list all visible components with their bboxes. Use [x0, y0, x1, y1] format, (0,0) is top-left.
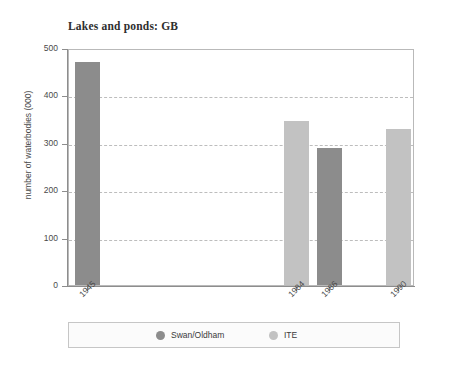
chart-title: Lakes and ponds: GB — [68, 20, 178, 32]
gridline — [69, 145, 413, 146]
gridline — [69, 192, 413, 193]
y-tick-label: 100 — [18, 233, 58, 243]
y-tick-label: 0 — [18, 280, 58, 290]
plot-area — [69, 50, 413, 285]
y-tick-label: 200 — [18, 185, 58, 195]
legend-item: ITE — [269, 330, 297, 340]
y-tick-label: 300 — [18, 138, 58, 148]
legend-label: ITE — [284, 330, 297, 340]
legend-swatch-circle-icon — [269, 331, 278, 340]
bar — [386, 129, 411, 285]
y-tick-label: 500 — [18, 43, 58, 53]
chart-legend: Swan/OldhamITE — [68, 322, 400, 348]
plot-frame — [68, 49, 414, 286]
x-axis-line — [68, 286, 415, 287]
legend-swatch-circle-icon — [156, 331, 165, 340]
y-tick-label: 400 — [18, 90, 58, 100]
bar — [317, 148, 342, 285]
gridline — [69, 97, 413, 98]
gridline — [69, 240, 413, 241]
bar — [75, 62, 100, 285]
bar — [284, 121, 309, 285]
chart-figure: Lakes and ponds: GB number of waterbodie… — [0, 0, 454, 369]
legend-label: Swan/Oldham — [171, 330, 224, 340]
legend-item: Swan/Oldham — [156, 330, 224, 340]
